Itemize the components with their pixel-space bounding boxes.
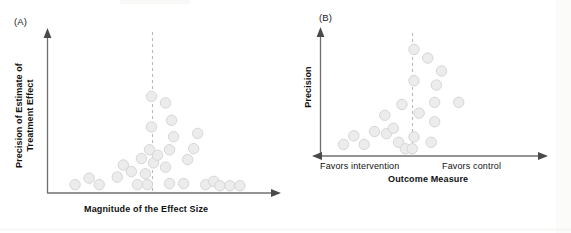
- panel-b-points: [338, 44, 464, 154]
- panel-b-y-axis-arrow: [317, 27, 325, 37]
- data-point: [168, 131, 178, 141]
- data-point: [178, 178, 188, 188]
- data-point: [152, 150, 162, 160]
- data-point: [146, 122, 156, 132]
- data-point: [369, 126, 379, 136]
- panel-b-x-axis-arrow-right: [538, 152, 548, 160]
- data-point: [436, 66, 446, 76]
- data-point: [193, 128, 203, 138]
- panel-b-plot: [290, 0, 571, 233]
- data-point: [338, 139, 348, 149]
- data-point: [429, 117, 439, 127]
- data-point: [160, 98, 170, 108]
- panel-b-right-annotation: Favors control: [442, 161, 501, 171]
- data-point: [349, 131, 359, 141]
- data-point: [225, 181, 235, 191]
- data-point: [188, 143, 198, 153]
- data-point: [94, 179, 104, 189]
- data-point: [409, 44, 419, 54]
- data-point: [409, 132, 419, 142]
- panel-a: (A) Precision of Estimate of Treatment E…: [0, 0, 290, 233]
- data-point: [164, 145, 174, 155]
- panel-a-plot: [0, 0, 290, 233]
- data-point: [407, 144, 417, 154]
- panel-b-x-axis-label: Outcome Measure: [388, 174, 468, 184]
- panel-a-x-axis-label: Magnitude of the Effect Size: [84, 204, 208, 214]
- data-point: [146, 91, 156, 101]
- data-point: [142, 179, 152, 189]
- data-point: [423, 53, 433, 63]
- data-point: [431, 80, 441, 90]
- data-point: [136, 153, 146, 163]
- data-point: [132, 179, 142, 189]
- panel-a-points: [70, 91, 245, 191]
- panel-b: (B) Precision Favors intervention Favors…: [290, 0, 571, 233]
- data-point: [215, 181, 225, 191]
- data-point: [166, 115, 176, 125]
- data-point: [380, 110, 390, 120]
- data-point: [426, 137, 436, 147]
- data-point: [70, 179, 80, 189]
- data-point: [454, 97, 464, 107]
- figure-canvas: (A) Precision of Estimate of Treatment E…: [0, 0, 571, 233]
- data-point: [84, 173, 94, 183]
- data-point: [126, 166, 136, 176]
- data-point: [164, 178, 174, 188]
- panel-b-x-axis-arrow-left: [312, 152, 322, 160]
- data-point: [409, 76, 419, 86]
- panel-b-left-annotation: Favors intervention: [320, 161, 399, 171]
- data-point: [182, 154, 192, 164]
- data-point: [414, 108, 424, 118]
- data-point: [429, 97, 439, 107]
- panel-a-x-axis-arrow: [271, 189, 281, 197]
- data-point: [359, 139, 369, 149]
- data-point: [160, 162, 170, 172]
- data-point: [388, 123, 398, 133]
- data-point: [140, 169, 150, 179]
- data-point: [112, 172, 122, 182]
- data-point: [235, 181, 245, 191]
- data-point: [397, 99, 407, 109]
- panel-a-y-axis-arrow: [44, 28, 52, 38]
